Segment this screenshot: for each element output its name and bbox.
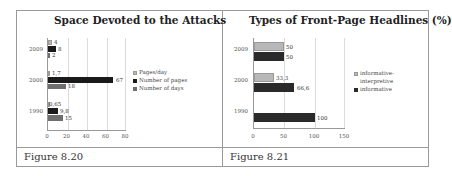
value-label: 66,6	[297, 85, 309, 91]
category-label: 2000	[230, 77, 248, 83]
bar-number-of-days-1990	[48, 115, 63, 121]
x-tick: 60	[102, 133, 109, 139]
legend: informative- interpretive informative	[354, 69, 394, 93]
x-tick: 50	[280, 133, 287, 139]
value-label: 33,3	[276, 75, 288, 81]
bar-informative-2009	[254, 52, 284, 61]
legend-item: informative-	[354, 69, 394, 77]
chart-title: Types of Front-Page Headlines (%)	[249, 14, 452, 26]
category-label: 1990	[25, 108, 43, 114]
x-tick: 40	[83, 133, 90, 139]
bar-pages-per-day-2000	[48, 71, 50, 76]
bar-number-of-pages-2000	[48, 77, 113, 83]
x-tick: 150	[339, 133, 350, 139]
bar-number-of-days-2000	[48, 84, 66, 89]
x-tick: 0	[45, 133, 49, 139]
x-tick: 20	[63, 133, 70, 139]
value-label: 9,8	[60, 108, 69, 114]
value-label: 15	[65, 115, 72, 121]
bar-informative-1990	[254, 113, 315, 122]
legend-item: Number of pages	[133, 76, 187, 84]
bar-informative-interpretive-2000	[254, 73, 274, 82]
value-label: 67	[116, 77, 123, 83]
legend-swatch	[133, 71, 137, 75]
gridline	[125, 38, 126, 130]
legend-swatch	[354, 88, 358, 92]
plot-area: 50 50 33,3 66,6 100	[253, 38, 345, 129]
category-label: 1990	[230, 108, 248, 114]
category-label: 2000	[25, 77, 43, 83]
column-divider	[222, 10, 223, 167]
figure-caption: Figure 8.20	[24, 151, 83, 162]
x-tick: 0	[251, 133, 255, 139]
legend-swatch	[133, 87, 137, 91]
value-label: 100	[317, 115, 328, 121]
caption-divider	[16, 147, 429, 148]
value-label: 0,65	[49, 101, 61, 107]
x-tick: 80	[122, 133, 129, 139]
legend-item: Number of days	[133, 84, 187, 92]
legend-swatch	[133, 79, 137, 83]
category-label: 2009	[230, 46, 248, 52]
value-label: 1,7	[52, 70, 61, 76]
bar-pages-per-day-2009	[48, 40, 52, 45]
bar-number-of-pages-1990	[48, 108, 58, 114]
legend-swatch	[354, 72, 358, 76]
legend: Pages/day Number of pages Number of days	[133, 68, 187, 92]
value-label: 4	[54, 39, 58, 45]
gridline	[344, 38, 345, 128]
value-label: 2	[52, 52, 56, 58]
legend-item: Pages/day	[133, 68, 187, 76]
value-label: 50	[286, 54, 293, 60]
value-label: 50	[286, 44, 293, 50]
bar-informative-2000	[254, 83, 294, 92]
value-label: 8	[58, 46, 62, 52]
category-label: 2009	[25, 46, 43, 52]
plot-area: 4 8 2 1,7 67 18 0,65 9,8 15	[47, 38, 126, 131]
bar-informative-interpretive-2009	[254, 42, 284, 51]
gridline	[107, 38, 108, 130]
gridline	[315, 38, 316, 128]
figure-caption: Figure 8.21	[230, 151, 289, 162]
value-label: 18	[68, 83, 75, 89]
x-tick: 100	[309, 133, 320, 139]
chart-title: Space Devoted to the Attacks	[54, 14, 226, 26]
gridline	[87, 38, 88, 130]
bar-number-of-days-2009	[48, 53, 50, 58]
legend-item: informative	[354, 85, 394, 93]
